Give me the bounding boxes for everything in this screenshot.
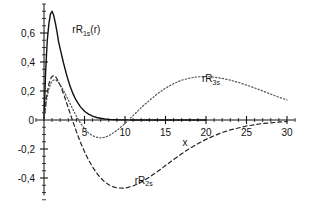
curve-label: rR1s(r) xyxy=(72,24,100,37)
y-tick-label: -0,4 xyxy=(18,173,36,184)
x-tick-label: 30 xyxy=(281,127,293,138)
x-tick-label: 5 xyxy=(82,127,88,138)
y-tick-label: 0,4 xyxy=(21,57,35,68)
y-tick-label: 0,6 xyxy=(21,28,35,39)
x-tick-label: 20 xyxy=(200,127,212,138)
chart-canvas: 510152025300,60,40,20-0,2-0,4 rR1s(r)rR3… xyxy=(0,0,310,210)
curve-label: rR2s xyxy=(135,175,153,188)
y-tick-label: -0,2 xyxy=(18,144,36,155)
curve-label-subscript: 3s xyxy=(213,79,221,86)
x-tick-label: 15 xyxy=(160,127,172,138)
curve-label-base: rR xyxy=(135,175,146,186)
data-curves xyxy=(44,11,287,188)
curve-label-tail: (r) xyxy=(90,24,100,35)
curve-label-subscript: 2s xyxy=(145,180,153,187)
x-axis-label: x xyxy=(182,137,187,148)
x-tick-label: 25 xyxy=(241,127,253,138)
tick-labels: 510152025300,60,40,20-0,2-0,4 xyxy=(18,28,293,184)
curve-label-base: rR xyxy=(202,73,213,84)
curve-annotations: rR1s(r)rR3srR2s xyxy=(72,24,220,187)
axis-labels: x xyxy=(182,137,187,148)
curve-label: rR3s xyxy=(202,73,220,86)
y-tick-label: 0 xyxy=(28,115,34,126)
x-tick-label: 10 xyxy=(119,127,131,138)
curve-label-base: rR xyxy=(72,24,83,35)
radial-wavefunction-chart: 510152025300,60,40,20-0,2-0,4 rR1s(r)rR3… xyxy=(0,0,310,210)
y-tick-label: 0,2 xyxy=(21,86,35,97)
curve-rR1s xyxy=(44,11,206,120)
